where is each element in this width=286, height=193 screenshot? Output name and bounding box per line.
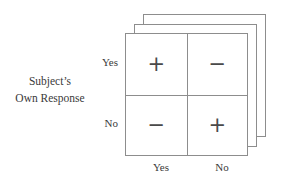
response-matrix-figure: Subject’s Own Response Yes No + − − + Ye… — [0, 0, 286, 193]
matrix-cell-no-no: + — [187, 95, 248, 156]
row-label-no: No — [78, 117, 118, 129]
column-label-yes: Yes — [136, 161, 186, 173]
axis-title-line-1: Subject’s — [4, 73, 96, 90]
matrix-cell-yes-yes: + — [126, 34, 187, 95]
axis-title-subjects-own-response: Subject’s Own Response — [4, 73, 96, 106]
column-label-no: No — [197, 161, 247, 173]
matrix-cell-yes-no: − — [187, 34, 248, 95]
axis-title-line-2: Own Response — [4, 90, 96, 107]
row-label-yes: Yes — [78, 56, 118, 68]
confusion-matrix-grid: + − − + — [125, 33, 248, 156]
matrix-cell-no-yes: − — [126, 95, 187, 156]
